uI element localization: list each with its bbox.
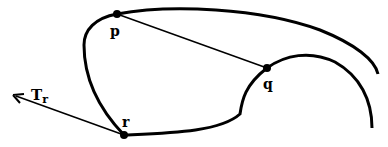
curve-diagram: p q r Tr bbox=[0, 0, 388, 147]
label-r: r bbox=[122, 114, 130, 130]
point-r bbox=[120, 131, 128, 139]
label-tangent: Tr bbox=[31, 86, 48, 106]
inner-bump-curve bbox=[124, 55, 372, 135]
label-q: q bbox=[263, 76, 273, 92]
chord-pq bbox=[117, 14, 267, 68]
point-q bbox=[263, 64, 271, 72]
label-tangent-sub: r bbox=[42, 93, 48, 106]
point-p bbox=[113, 10, 121, 18]
label-p: p bbox=[110, 23, 120, 39]
